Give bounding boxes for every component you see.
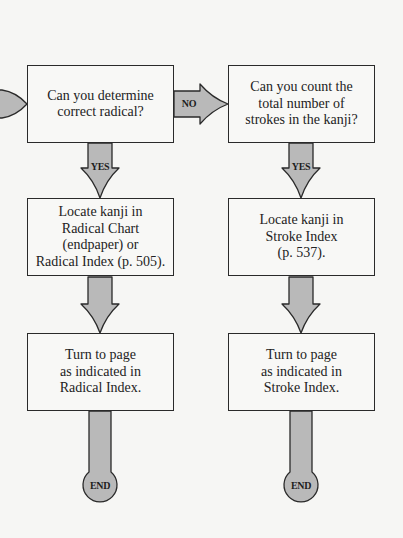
end-label-left: END bbox=[86, 480, 114, 491]
down-arrow-left bbox=[81, 277, 119, 333]
no-label: NO bbox=[178, 98, 200, 109]
question-radical-box: Can you determine correct radical? bbox=[27, 65, 174, 143]
turn-stroke-box: Turn to page as indicated in Stroke Inde… bbox=[228, 333, 375, 411]
down-arrow-right bbox=[282, 277, 320, 333]
yes-label-right: YES bbox=[287, 161, 315, 172]
locate-stroke-box: Locate kanji in Stroke Index (p. 537). bbox=[228, 198, 375, 276]
locate-radical-box: Locate kanji in Radical Chart (endpaper)… bbox=[27, 198, 174, 276]
turn-radical-box: Turn to page as indicated in Radical Ind… bbox=[27, 333, 174, 411]
turn-radical-text: Turn to page as indicated in Radical Ind… bbox=[60, 347, 142, 397]
question-radical-text: Can you determine correct radical? bbox=[47, 88, 154, 121]
yes-label-left: YES bbox=[86, 161, 114, 172]
question-strokes-text: Can you count the total number of stroke… bbox=[245, 79, 357, 129]
end-label-right: END bbox=[287, 480, 315, 491]
question-strokes-box: Can you count the total number of stroke… bbox=[228, 65, 375, 143]
locate-radical-text: Locate kanji in Radical Chart (endpaper)… bbox=[36, 204, 165, 270]
entry-arrow bbox=[0, 90, 27, 118]
turn-stroke-text: Turn to page as indicated in Stroke Inde… bbox=[261, 347, 342, 397]
locate-stroke-text: Locate kanji in Stroke Index (p. 537). bbox=[260, 212, 344, 262]
